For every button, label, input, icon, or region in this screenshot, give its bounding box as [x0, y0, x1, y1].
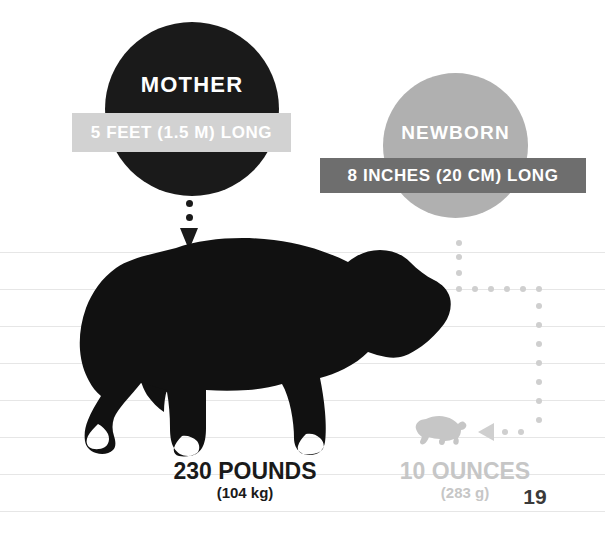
- bear-cub-silhouette: [412, 414, 470, 446]
- newborn-path-dot: [502, 429, 508, 435]
- newborn-circle-label: NEWBORN: [378, 122, 533, 143]
- newborn-circle: [383, 73, 528, 218]
- mother-weight-main: 230 POUNDS: [95, 458, 395, 484]
- newborn-path-dot: [518, 429, 524, 435]
- bear-silhouette: [36, 236, 454, 462]
- mother-circle: [105, 22, 279, 196]
- newborn-path-dot: [536, 322, 542, 328]
- mother-weight-caption: 230 POUNDS (104 kg): [95, 458, 395, 502]
- rule-line: [0, 511, 605, 512]
- newborn-path-dot: [536, 379, 542, 385]
- newborn-path-dot: [536, 417, 542, 423]
- newborn-path-dot: [456, 270, 462, 276]
- mother-arrow-dot: [186, 214, 193, 221]
- newborn-path-dot: [456, 286, 462, 292]
- page-number: 19: [505, 485, 565, 509]
- newborn-path-dot: [472, 286, 478, 292]
- newborn-weight-main: 10 OUNCES: [355, 458, 575, 484]
- newborn-path-dot: [536, 303, 542, 309]
- mother-weight-metric: (104 kg): [95, 484, 395, 502]
- newborn-weight-unit: OUNCES: [432, 458, 530, 484]
- newborn-path-dot: [520, 286, 526, 292]
- mother-length-banner: 5 FEET (1.5 M) LONG: [72, 113, 291, 152]
- mother-arrow-dot: [186, 200, 193, 207]
- mother-circle-label: MOTHER: [105, 73, 279, 97]
- newborn-path-dot: [536, 286, 542, 292]
- newborn-path-dot: [456, 254, 462, 260]
- infographic-page: MOTHER NEWBORN 5 FEET (1.5 M) LONG 8 INC…: [0, 0, 605, 541]
- mother-weight-unit: POUNDS: [218, 458, 316, 484]
- newborn-path-dot: [536, 360, 542, 366]
- newborn-path-dot: [504, 286, 510, 292]
- newborn-path-dot: [488, 286, 494, 292]
- newborn-left-arrow-icon: [478, 423, 494, 441]
- newborn-path-dot: [536, 341, 542, 347]
- newborn-length-banner: 8 INCHES (20 CM) LONG: [320, 158, 586, 193]
- newborn-weight-value: 10: [400, 458, 426, 484]
- newborn-path-dot: [456, 240, 462, 246]
- newborn-path-dot: [536, 398, 542, 404]
- mother-weight-value: 230: [173, 458, 211, 484]
